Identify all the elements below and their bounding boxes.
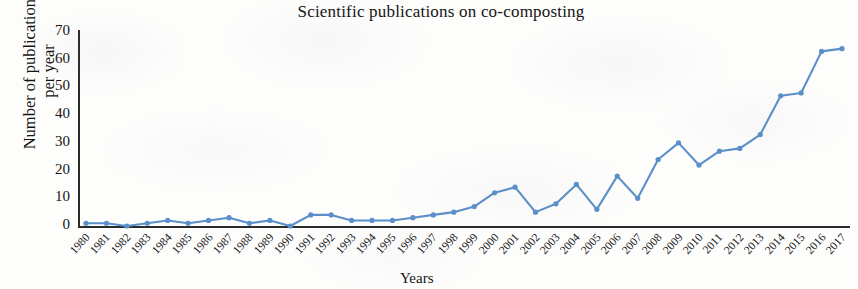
data-point (799, 90, 804, 95)
series-plot (0, 0, 858, 289)
data-point (247, 221, 252, 226)
data-point (308, 212, 313, 217)
data-point (288, 223, 293, 228)
data-point (656, 157, 661, 162)
data-point (472, 204, 477, 209)
data-point (349, 218, 354, 223)
data-point (512, 185, 517, 190)
series-markers (83, 46, 844, 229)
data-point (553, 201, 558, 206)
data-point (717, 149, 722, 154)
data-point (186, 221, 191, 226)
data-point (431, 212, 436, 217)
data-point (594, 207, 599, 212)
data-point (676, 140, 681, 145)
data-point (145, 221, 150, 226)
data-point (615, 174, 620, 179)
data-point (696, 162, 701, 167)
data-point (226, 215, 231, 220)
data-point (492, 190, 497, 195)
x-axis-title: Years (400, 270, 433, 287)
data-point (737, 146, 742, 151)
data-point (819, 49, 824, 54)
series-line (86, 49, 842, 226)
data-point (267, 218, 272, 223)
chart-figure: Scientific publications on co-composting… (0, 0, 858, 289)
data-point (574, 182, 579, 187)
data-point (635, 196, 640, 201)
data-point (758, 132, 763, 137)
data-point (124, 223, 129, 228)
data-point (410, 215, 415, 220)
data-point (104, 221, 109, 226)
x-axis-title-text: Years (400, 270, 433, 286)
data-point (533, 210, 538, 215)
data-point (451, 210, 456, 215)
data-point (839, 46, 844, 51)
data-point (206, 218, 211, 223)
data-point (390, 218, 395, 223)
data-point (83, 221, 88, 226)
data-point (369, 218, 374, 223)
data-point (778, 93, 783, 98)
data-point (329, 212, 334, 217)
data-point (165, 218, 170, 223)
